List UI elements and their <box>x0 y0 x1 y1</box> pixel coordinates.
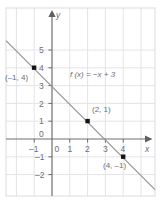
function-equation-label: f (x) = −x + 3 <box>70 71 115 79</box>
y-tick-label-2: 2 <box>39 100 44 109</box>
y-tick-label-4: 4 <box>39 64 44 73</box>
y-axis-label: y <box>56 11 60 20</box>
x-tick-label-0: 0 <box>55 145 60 154</box>
graph-canvas <box>0 0 162 204</box>
y-tick-label-1: 1 <box>39 117 44 126</box>
point-label-neg1-4: (–1, 4) <box>5 74 28 82</box>
x-tick-label-1: 1 <box>68 145 73 154</box>
y-tick-label-0: 0 <box>39 130 44 139</box>
x-axis-label: x <box>145 145 149 154</box>
x-tick-label-3: 3 <box>103 145 108 154</box>
x-tick-label-4: 4 <box>121 145 126 154</box>
data-point-marker <box>85 119 89 123</box>
y-tick-label-neg2: –2 <box>35 171 44 180</box>
coordinate-plane-figure: 5 4 3 2 1 0 –1 –2 –1 0 1 2 3 4 y x (–1, … <box>0 0 162 204</box>
x-tick-label-neg1: –1 <box>29 145 38 154</box>
data-point-marker <box>32 66 36 70</box>
data-point-marker <box>121 155 125 159</box>
point-label-4-neg1: (4, –1) <box>103 162 126 170</box>
y-tick-label-neg1: –1 <box>35 153 44 162</box>
y-tick-label-3: 3 <box>39 82 44 91</box>
x-tick-label-2: 2 <box>85 145 90 154</box>
y-tick-label-5: 5 <box>39 46 44 55</box>
point-label-2-1: (2, 1) <box>92 106 111 114</box>
